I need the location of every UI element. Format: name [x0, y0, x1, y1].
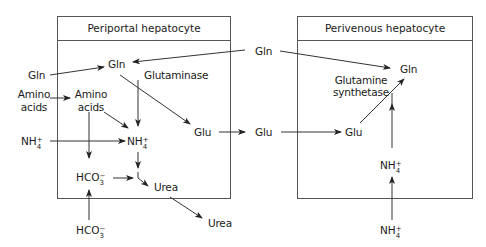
- nh4-periportal-label: NH+4: [127, 135, 149, 151]
- hco3-outside-label: HCO−3: [76, 224, 105, 240]
- glutaminase-label: Glutaminase: [144, 69, 208, 81]
- gln-between-label: Gln: [255, 45, 272, 57]
- amino-acids-outside-label-1: Amino: [16, 88, 52, 100]
- hco3-inside-label: HCO−3: [76, 171, 105, 187]
- gln-periportal-label: Gln: [108, 58, 125, 70]
- glu-periportal-label: Glu: [194, 126, 211, 138]
- glu-between-label: Glu: [255, 126, 272, 138]
- glutamine-synthetase-label-2: synthetase: [333, 86, 389, 98]
- glu-perivenous-label: Glu: [345, 126, 362, 138]
- amino-acids-inside-label-2: acids: [73, 101, 109, 113]
- amino-acids-inside-label-1: Amino: [73, 88, 109, 100]
- periportal-title: Periportal hepatocyte: [58, 22, 230, 34]
- urea-outside-label: Urea: [208, 217, 232, 229]
- perivenous-title: Perivenous hepatocyte: [298, 22, 472, 34]
- gln-outside-left-label: Gln: [28, 69, 45, 81]
- nh4-outside-bottom-label: NH+4: [380, 224, 402, 240]
- nh4-outside-left-label: NH+4: [21, 135, 43, 151]
- glutamine-synthetase-label-1: Glutamine: [333, 74, 389, 86]
- pathway-diagram: [0, 0, 486, 247]
- gln-perivenous-label: Gln: [400, 63, 417, 75]
- amino-acids-outside-label-2: acids: [16, 101, 52, 113]
- nh4-perivenous-label: NH+4: [380, 159, 402, 175]
- urea-inside-label: Urea: [154, 181, 178, 193]
